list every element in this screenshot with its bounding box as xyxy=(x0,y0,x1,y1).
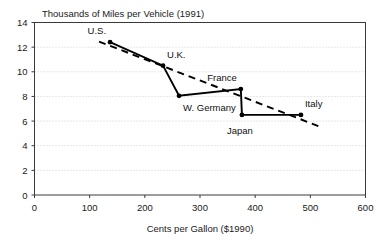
y-tick-label: 8 xyxy=(22,91,27,102)
y-tick-label: 6 xyxy=(22,116,27,127)
data-point-marker xyxy=(108,40,113,45)
x-tick-label: 600 xyxy=(358,202,374,213)
x-axis-label: Cents per Gallon ($1990) xyxy=(147,223,254,234)
data-point-marker xyxy=(161,63,166,68)
point-label-w-germany: W. Germany xyxy=(183,102,236,113)
y-tick-label: 12 xyxy=(17,42,28,53)
y-tick-label: 0 xyxy=(22,190,27,201)
y-tick-label: 14 xyxy=(17,17,28,28)
x-tick-label: 0 xyxy=(32,202,37,213)
y-tick-label: 2 xyxy=(22,165,27,176)
point-label-u-k: U.K. xyxy=(167,49,185,60)
data-point-marker xyxy=(238,87,243,92)
data-point-marker xyxy=(299,113,304,118)
y-tick-label: 10 xyxy=(17,66,28,77)
miles-per-vehicle-chart: 0100200300400500600 02468101214 Thousand… xyxy=(0,0,384,242)
x-tick-label: 500 xyxy=(302,202,318,213)
data-point-marker xyxy=(240,113,245,118)
point-label-u-s: U.S. xyxy=(88,25,106,36)
x-tick-label: 400 xyxy=(247,202,263,213)
chart-container: 0100200300400500600 02468101214 Thousand… xyxy=(0,0,384,242)
x-tick-label: 200 xyxy=(137,202,153,213)
point-label-france: France xyxy=(207,72,237,83)
y-tick-label: 4 xyxy=(22,140,27,151)
chart-title: Thousands of Miles per Vehicle (1991) xyxy=(42,8,204,19)
x-tick-label: 100 xyxy=(82,202,98,213)
x-tick-label: 300 xyxy=(192,202,208,213)
point-label-japan: Japan xyxy=(227,125,253,136)
point-label-italy: Italy xyxy=(305,98,323,109)
data-point-marker xyxy=(177,93,182,98)
